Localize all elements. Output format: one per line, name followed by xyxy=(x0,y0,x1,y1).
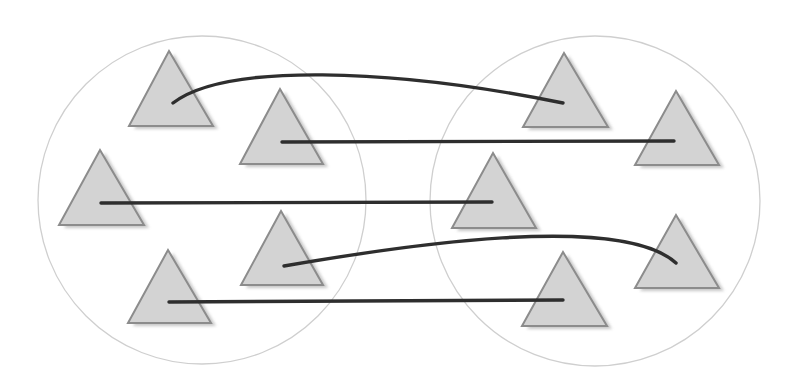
triangle-node-R3 xyxy=(452,153,541,231)
link-L4-R4 xyxy=(284,236,676,266)
triangle-icon xyxy=(241,211,323,285)
triangle-icon xyxy=(523,53,608,127)
diagram-canvas xyxy=(0,0,788,392)
triangle-icon xyxy=(128,250,211,323)
triangle-node-L5 xyxy=(128,250,216,326)
triangle-node-L4 xyxy=(241,211,328,288)
link-L2-R2 xyxy=(282,141,674,142)
triangle-icon xyxy=(59,150,144,225)
link-L1-R1 xyxy=(173,75,563,103)
link-L5-R5 xyxy=(169,300,563,302)
triangle-icon xyxy=(240,89,323,164)
triangle-node-R1 xyxy=(523,53,613,130)
bipartite-mapping-diagram xyxy=(0,0,788,392)
triangle-icon xyxy=(522,252,607,326)
node-triangles xyxy=(59,51,724,329)
triangle-node-R4 xyxy=(635,215,724,291)
triangle-node-R5 xyxy=(522,252,612,329)
triangle-icon xyxy=(452,153,536,228)
triangle-icon xyxy=(635,91,719,165)
link-L3-R3 xyxy=(101,202,492,203)
triangle-node-L2 xyxy=(240,89,328,167)
triangle-node-L1 xyxy=(129,51,218,129)
triangle-node-L3 xyxy=(59,150,149,228)
triangle-icon xyxy=(635,215,719,288)
triangle-node-R2 xyxy=(635,91,724,168)
